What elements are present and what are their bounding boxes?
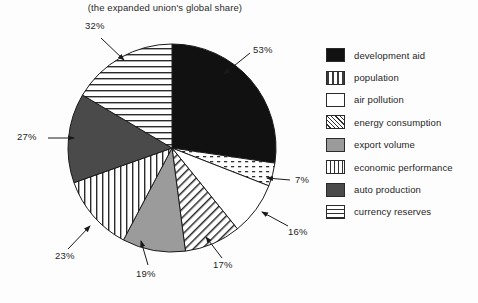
pct-label-air-pollution: 16% bbox=[288, 226, 308, 237]
legend-label-auto-production: auto production bbox=[354, 184, 421, 195]
swatch-energy-consumption-icon bbox=[326, 115, 345, 129]
pie-chart-figure: (the expanded union's global share) bbox=[0, 0, 478, 303]
pct-label-energy-consumption: 17% bbox=[213, 259, 233, 270]
swatch-export-volume-icon bbox=[326, 138, 345, 152]
legend-item-population: population bbox=[326, 66, 478, 88]
legend-item-development-aid: development aid bbox=[326, 44, 478, 66]
swatch-economic-performance-icon bbox=[326, 160, 345, 174]
pct-label-currency-reserves: 32% bbox=[85, 20, 105, 31]
pct-label-economic-performance: 23% bbox=[55, 250, 75, 261]
arrow-currency-reserves bbox=[101, 38, 124, 60]
arrow-air-pollution bbox=[262, 212, 288, 226]
legend-label-economic-performance: economic performance bbox=[354, 162, 453, 173]
legend-item-auto-production: auto production bbox=[326, 178, 478, 200]
legend-label-population: population bbox=[354, 72, 399, 83]
pie-plot-area: 32% 53% 7% 16% 17% 19% 23% 27% bbox=[0, 0, 330, 303]
legend-label-air-pollution: air pollution bbox=[354, 94, 404, 105]
legend-label-currency-reserves: currency reserves bbox=[354, 206, 431, 217]
legend-item-economic-performance: economic performance bbox=[326, 156, 478, 178]
swatch-currency-reserves-icon bbox=[326, 205, 345, 219]
legend-item-energy-consumption: energy consumption bbox=[326, 111, 478, 133]
swatch-auto-production-icon bbox=[326, 183, 345, 197]
pct-label-auto-production: 27% bbox=[17, 131, 37, 142]
legend-label-energy-consumption: energy consumption bbox=[354, 117, 441, 128]
legend: development aid population air pollution… bbox=[326, 44, 478, 223]
pct-label-population: 7% bbox=[295, 174, 309, 185]
swatch-population-icon bbox=[326, 71, 345, 85]
legend-item-export-volume: export volume bbox=[326, 134, 478, 156]
pct-label-export-volume: 19% bbox=[136, 268, 156, 279]
swatch-development-aid-icon bbox=[326, 48, 345, 62]
legend-label-development-aid: development aid bbox=[354, 50, 425, 61]
legend-item-currency-reserves: currency reserves bbox=[326, 201, 478, 223]
pie-svg bbox=[0, 0, 330, 303]
pie-slices bbox=[68, 44, 276, 252]
legend-item-air-pollution: air pollution bbox=[326, 89, 478, 111]
swatch-air-pollution-icon bbox=[326, 93, 345, 107]
legend-label-export-volume: export volume bbox=[354, 139, 415, 150]
arrow-economic-performance bbox=[68, 226, 90, 249]
pct-label-development-aid: 53% bbox=[253, 44, 273, 55]
pie-slice-development-aid bbox=[172, 44, 276, 163]
